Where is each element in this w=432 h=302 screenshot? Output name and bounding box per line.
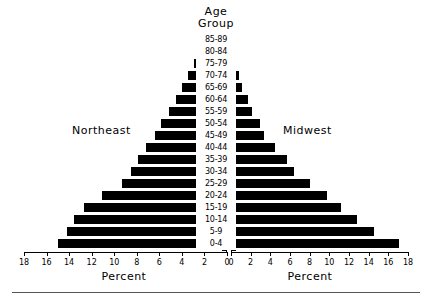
x-axis-tick bbox=[137, 252, 138, 256]
age-group-label: 45-49 bbox=[196, 130, 236, 142]
chart-title-line-2: Group bbox=[0, 18, 432, 30]
x-axis-tick-label: 4 bbox=[172, 258, 192, 267]
x-axis-tick bbox=[408, 252, 409, 256]
age-group-label: 25-29 bbox=[196, 178, 236, 190]
left-horizontal-axis bbox=[24, 252, 227, 253]
bar-northeast bbox=[58, 239, 205, 248]
pyramid-row: 85-89 bbox=[0, 34, 432, 46]
x-axis-tick bbox=[114, 252, 115, 256]
pyramid-row: 25-29 bbox=[0, 178, 432, 190]
x-axis-tick-label: 12 bbox=[82, 258, 102, 267]
axis-tick bbox=[222, 250, 226, 251]
x-axis-tick bbox=[182, 252, 183, 256]
x-axis-tick-label: 0 bbox=[221, 258, 241, 267]
age-group-label: 40-44 bbox=[196, 142, 236, 154]
x-axis-tick bbox=[227, 252, 228, 256]
x-axis-tick bbox=[290, 252, 291, 256]
bar-midwest bbox=[232, 143, 275, 152]
bar-midwest bbox=[232, 119, 260, 128]
bar-midwest bbox=[232, 203, 341, 212]
age-group-label: 50-54 bbox=[196, 118, 236, 130]
pyramid-row: 75-79 bbox=[0, 58, 432, 70]
pyramid-row: 35-39 bbox=[0, 154, 432, 166]
x-axis-tick-label: 14 bbox=[59, 258, 79, 267]
bar-northeast bbox=[102, 191, 205, 200]
age-group-label: 10-14 bbox=[196, 214, 236, 226]
x-axis-tick-label: 8 bbox=[127, 258, 147, 267]
x-axis-tick-label: 12 bbox=[339, 258, 359, 267]
age-group-label: 30-34 bbox=[196, 166, 236, 178]
x-axis-tick-label: 6 bbox=[149, 258, 169, 267]
pyramid-row: 30-34 bbox=[0, 166, 432, 178]
x-axis-tick bbox=[204, 252, 205, 256]
pyramid-row: 60-64 bbox=[0, 94, 432, 106]
bar-midwest bbox=[232, 215, 357, 224]
age-group-label: 80-84 bbox=[196, 46, 236, 58]
age-group-label: 20-24 bbox=[196, 190, 236, 202]
x-axis-tick bbox=[329, 252, 330, 256]
x-axis-tick bbox=[69, 252, 70, 256]
left-axis-label: Percent bbox=[64, 270, 184, 283]
bar-northeast bbox=[74, 215, 205, 224]
age-group-label: 65-69 bbox=[196, 82, 236, 94]
x-axis-tick-label: 16 bbox=[378, 258, 398, 267]
pyramid-row: 80-84 bbox=[0, 46, 432, 58]
series-label-midwest: Midwest bbox=[283, 124, 332, 137]
x-axis-tick bbox=[251, 252, 252, 256]
x-axis-tick bbox=[310, 252, 311, 256]
series-label-northeast: Northeast bbox=[72, 124, 131, 137]
x-axis-tick bbox=[270, 252, 271, 256]
bar-northeast bbox=[131, 167, 205, 176]
x-axis-tick-label: 18 bbox=[14, 258, 34, 267]
age-group-label: 5-9 bbox=[196, 226, 236, 238]
x-axis-tick bbox=[24, 252, 25, 256]
bar-midwest bbox=[232, 191, 327, 200]
age-group-label: 75-79 bbox=[196, 58, 236, 70]
pyramid-row: 45-49 bbox=[0, 130, 432, 142]
x-axis-tick-label: 4 bbox=[260, 258, 280, 267]
bar-midwest bbox=[232, 155, 287, 164]
population-pyramid-chart: Age Group 85-8980-8475-7970-7465-6960-64… bbox=[0, 0, 432, 302]
x-axis-tick bbox=[349, 252, 350, 256]
pyramid-row: 65-69 bbox=[0, 82, 432, 94]
pyramid-row: 20-24 bbox=[0, 190, 432, 202]
bottom-divider bbox=[12, 292, 420, 293]
pyramid-row: 40-44 bbox=[0, 142, 432, 154]
pyramid-row: 15-19 bbox=[0, 202, 432, 214]
x-axis-tick bbox=[369, 252, 370, 256]
age-group-label: 15-19 bbox=[196, 202, 236, 214]
x-axis-tick bbox=[92, 252, 93, 256]
age-group-label: 0-4 bbox=[196, 238, 236, 250]
x-axis-tick-label: 8 bbox=[300, 258, 320, 267]
age-group-label: 35-39 bbox=[196, 154, 236, 166]
age-group-label: 55-59 bbox=[196, 106, 236, 118]
age-group-label: 70-74 bbox=[196, 70, 236, 82]
x-axis-tick-label: 2 bbox=[194, 258, 214, 267]
bar-northeast bbox=[67, 227, 205, 236]
bar-midwest bbox=[232, 239, 399, 248]
right-horizontal-axis bbox=[231, 252, 408, 253]
right-axis-label: Percent bbox=[250, 270, 370, 283]
x-axis-tick-label: 2 bbox=[241, 258, 261, 267]
x-axis-tick-label: 18 bbox=[398, 258, 418, 267]
pyramid-row: 70-74 bbox=[0, 70, 432, 82]
x-axis-tick-label: 16 bbox=[37, 258, 57, 267]
pyramid-row: 0-4 bbox=[0, 238, 432, 250]
age-group-label: 60-64 bbox=[196, 94, 236, 106]
x-axis-tick bbox=[159, 252, 160, 256]
x-axis-tick bbox=[47, 252, 48, 256]
bar-midwest bbox=[232, 179, 310, 188]
pyramid-row: 5-9 bbox=[0, 226, 432, 238]
x-axis-tick-label: 14 bbox=[359, 258, 379, 267]
bar-midwest bbox=[232, 167, 294, 176]
pyramid-row: 55-59 bbox=[0, 106, 432, 118]
x-axis-tick bbox=[231, 252, 232, 256]
bar-northeast bbox=[84, 203, 205, 212]
bar-northeast bbox=[122, 179, 205, 188]
x-axis-tick bbox=[388, 252, 389, 256]
pyramid-row: 10-14 bbox=[0, 214, 432, 226]
pyramid-row: 50-54 bbox=[0, 118, 432, 130]
plot-area: 85-8980-8475-7970-7465-6960-6455-5950-54… bbox=[0, 34, 432, 250]
x-axis-tick-label: 10 bbox=[319, 258, 339, 267]
x-axis-tick-label: 6 bbox=[280, 258, 300, 267]
